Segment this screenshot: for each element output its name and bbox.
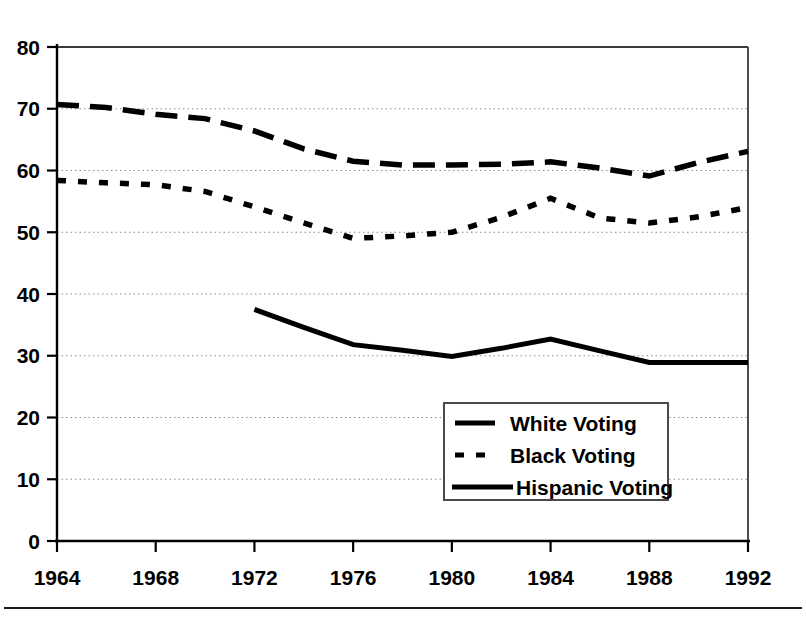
y-tick-label-60: 60: [17, 159, 40, 182]
chart-background: [0, 0, 806, 623]
chart-legend: White Voting Black Voting Hispanic Votin…: [444, 403, 673, 500]
y-tick-label-20: 20: [17, 406, 40, 429]
x-tick-label-1988: 1988: [626, 566, 673, 589]
x-tick-label-1980: 1980: [428, 566, 475, 589]
y-tick-label-40: 40: [17, 283, 40, 306]
y-tick-label-0: 0: [28, 530, 40, 553]
x-tick-label-1964: 1964: [34, 566, 81, 589]
chart-figure: 01020304050607080 1964196819721976198019…: [0, 0, 806, 623]
x-tick-label-1968: 1968: [132, 566, 179, 589]
legend-label-hispanic-voting: Hispanic Voting: [516, 476, 673, 499]
x-tick-label-1992: 1992: [725, 566, 772, 589]
legend-label-black-voting: Black Voting: [510, 444, 636, 467]
y-tick-label-30: 30: [17, 344, 40, 367]
line-chart: 01020304050607080 1964196819721976198019…: [0, 0, 806, 623]
y-tick-label-50: 50: [17, 221, 40, 244]
y-tick-label-10: 10: [17, 468, 40, 491]
x-tick-label-1972: 1972: [231, 566, 278, 589]
y-tick-label-70: 70: [17, 97, 40, 120]
legend-label-white-voting: White Voting: [510, 412, 637, 435]
y-axis-tick-labels: 01020304050607080: [17, 36, 40, 553]
x-tick-label-1984: 1984: [527, 566, 574, 589]
y-tick-label-80: 80: [17, 36, 40, 59]
x-tick-label-1976: 1976: [330, 566, 377, 589]
